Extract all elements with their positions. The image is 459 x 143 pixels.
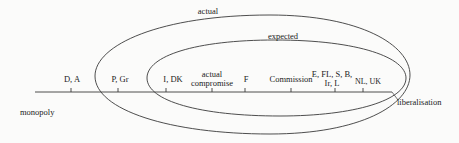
position-label-d-a: D, A (64, 75, 80, 84)
position-label-commission: Commission (270, 75, 313, 84)
actual-ellipse-label: actual (198, 7, 218, 16)
liberalisation-diagram: actual expected D, A P, Gr I, DK actual … (0, 0, 459, 143)
nl-uk-text: NL, UK (355, 77, 381, 86)
liberalisation-label: liberalisation (397, 98, 441, 107)
position-label-e-fl-s-b-ir-l: E, FL, S, B, Ir, L (312, 70, 352, 88)
axis-ticks (71, 88, 363, 92)
monopoly-label: monopoly (20, 108, 54, 117)
position-label-actual-compromise: actual compromise (191, 70, 233, 88)
position-label-nl-uk: NL, UK (355, 74, 381, 83)
ir-l-line2: Ir, L (312, 79, 352, 88)
actual-compromise-line2: compromise (191, 79, 233, 88)
position-label-f: F (244, 75, 249, 84)
position-label-p-gr: P, Gr (111, 75, 128, 84)
position-label-i-dk: I, DK (163, 75, 182, 84)
expected-ellipse-label: expected (268, 32, 298, 41)
